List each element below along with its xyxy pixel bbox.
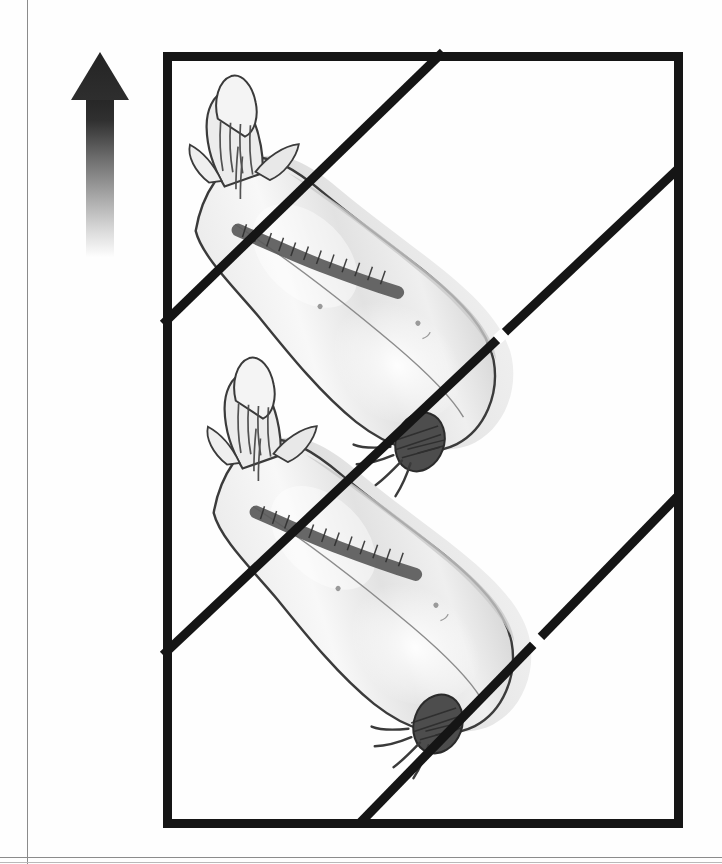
left-margin-rule [27, 0, 28, 864]
bottom-margin-rule-secondary [0, 862, 722, 863]
carcass-layer [163, 52, 683, 828]
bottom-margin-rule [0, 857, 722, 858]
orientation-arrow [70, 50, 130, 260]
carcass-lower [187, 352, 607, 772]
arrow-shaft [86, 98, 114, 258]
page-canvas [0, 0, 722, 864]
illustration-frame [163, 52, 683, 828]
arrow-head [71, 52, 129, 100]
